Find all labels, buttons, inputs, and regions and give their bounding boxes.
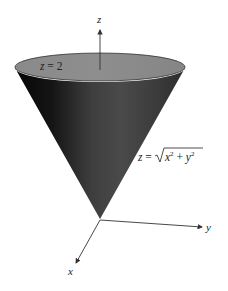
y-axis-label: y xyxy=(205,221,211,233)
svg-text:z =: z = xyxy=(137,151,152,163)
y-axis xyxy=(100,220,202,227)
plane-label: z = 2 xyxy=(39,60,63,72)
cone-equation-label: z = x2 + y2 xyxy=(137,148,203,164)
x-axis-label: x xyxy=(67,265,73,277)
cone-surface xyxy=(15,68,185,219)
svg-text:x2 + y2: x2 + y2 xyxy=(164,150,195,164)
z-axis-label: z xyxy=(96,13,102,25)
cone-diagram: z y x z = 2 z = x2 + y2 xyxy=(0,0,228,291)
x-axis xyxy=(76,220,100,263)
